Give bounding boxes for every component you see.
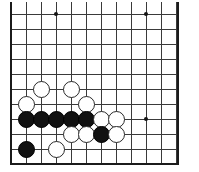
grid-line-horizontal-2 — [11, 44, 177, 45]
star-point-right — [144, 117, 148, 121]
black-stone-3[interactable] — [48, 111, 65, 128]
white-stone-4[interactable] — [78, 96, 95, 113]
goban-grid[interactable] — [0, 0, 199, 172]
grid-line-horizontal-3 — [11, 59, 177, 60]
grid-line-vertical-3 — [56, 2, 57, 163]
board-edge-bottom — [10, 163, 179, 165]
grid-line-vertical-1 — [26, 2, 27, 163]
black-stone-5[interactable] — [78, 111, 95, 128]
grid-line-vertical-9 — [146, 2, 147, 163]
black-stone-7[interactable] — [18, 141, 35, 158]
star-point-upper-right — [144, 12, 148, 16]
white-stone-6[interactable] — [108, 111, 125, 128]
black-stone-1[interactable] — [18, 111, 35, 128]
grid-line-horizontal-0 — [11, 14, 177, 15]
white-stone-8[interactable] — [78, 126, 95, 143]
grid-line-horizontal-9 — [11, 149, 177, 150]
white-stone-7[interactable] — [63, 126, 80, 143]
go-board-diagram — [0, 0, 199, 172]
white-stone-2[interactable] — [63, 81, 80, 98]
white-stone-10[interactable] — [48, 141, 65, 158]
board-edge-left — [10, 2, 12, 165]
white-stone-1[interactable] — [33, 81, 50, 98]
white-stone-5[interactable] — [93, 111, 110, 128]
black-stone-6[interactable] — [93, 126, 110, 143]
black-stone-4[interactable] — [63, 111, 80, 128]
grid-line-vertical-10 — [161, 2, 162, 163]
board-edge-right — [177, 2, 179, 165]
white-stone-9[interactable] — [108, 126, 125, 143]
grid-line-horizontal-1 — [11, 29, 177, 30]
grid-line-vertical-8 — [131, 2, 132, 163]
star-point-upper-left — [54, 12, 58, 16]
black-stone-2[interactable] — [33, 111, 50, 128]
grid-line-horizontal-4 — [11, 74, 177, 75]
white-stone-3[interactable] — [18, 96, 35, 113]
